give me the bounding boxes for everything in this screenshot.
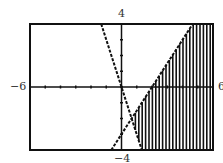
y-max-label: 4 <box>118 8 125 19</box>
axes <box>30 24 213 150</box>
inequality-graph <box>0 0 223 163</box>
y-min-label: −4 <box>114 153 130 163</box>
x-min-label: −6 <box>10 81 26 92</box>
x-max-label: 6 <box>218 81 223 92</box>
